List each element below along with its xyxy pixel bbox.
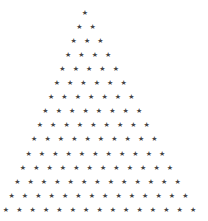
star-icon: ★ — [153, 164, 161, 171]
star-icon: ★ — [77, 51, 85, 58]
star-icon: ★ — [88, 192, 96, 199]
star-icon: ★ — [80, 80, 88, 87]
star-icon: ★ — [89, 23, 97, 30]
star-icon: ★ — [106, 80, 114, 87]
star-icon: ★ — [38, 150, 46, 157]
star-icon: ★ — [96, 37, 104, 44]
star-icon: ★ — [27, 178, 35, 185]
star-icon: ★ — [15, 207, 23, 214]
star-icon: ★ — [126, 164, 134, 171]
star-icon: ★ — [120, 178, 128, 185]
star-icon: ★ — [128, 192, 136, 199]
star-icon: ★ — [141, 192, 149, 199]
star-icon: ★ — [101, 94, 109, 101]
star-icon: ★ — [75, 23, 83, 30]
star-icon: ★ — [81, 9, 89, 16]
star-icon: ★ — [110, 136, 118, 143]
star-icon: ★ — [96, 207, 104, 214]
star-icon: ★ — [122, 207, 130, 214]
star-icon: ★ — [112, 65, 120, 72]
star-icon: ★ — [168, 192, 176, 199]
star-icon: ★ — [66, 80, 74, 87]
star-icon: ★ — [82, 108, 90, 115]
star-icon: ★ — [107, 178, 115, 185]
star-icon: ★ — [108, 108, 116, 115]
star-icon: ★ — [58, 65, 66, 72]
star-icon: ★ — [155, 192, 163, 199]
star-icon: ★ — [48, 192, 56, 199]
star-icon: ★ — [53, 80, 61, 87]
star-icon: ★ — [103, 122, 111, 129]
star-icon: ★ — [174, 178, 182, 185]
star-icon: ★ — [84, 136, 92, 143]
star-icon: ★ — [82, 207, 90, 214]
star-icon: ★ — [29, 207, 37, 214]
star-icon: ★ — [34, 192, 42, 199]
star-icon: ★ — [87, 94, 95, 101]
star-icon: ★ — [189, 207, 197, 214]
star-icon: ★ — [134, 178, 142, 185]
star-icon: ★ — [93, 80, 101, 87]
star-icon: ★ — [101, 192, 109, 199]
star-icon: ★ — [61, 94, 69, 101]
star-icon: ★ — [150, 136, 158, 143]
star-icon: ★ — [68, 108, 76, 115]
star-icon: ★ — [120, 80, 128, 87]
star-icon: ★ — [30, 136, 38, 143]
star-icon: ★ — [8, 192, 16, 199]
star-icon: ★ — [74, 94, 82, 101]
star-icon: ★ — [42, 108, 50, 115]
star-icon: ★ — [95, 108, 103, 115]
star-icon: ★ — [83, 37, 91, 44]
star-icon: ★ — [124, 136, 132, 143]
star-icon: ★ — [97, 136, 105, 143]
star-icon: ★ — [55, 207, 63, 214]
star-icon: ★ — [139, 164, 147, 171]
star-icon: ★ — [32, 164, 40, 171]
star-icon: ★ — [116, 122, 124, 129]
star-icon: ★ — [40, 178, 48, 185]
star-icon: ★ — [65, 150, 73, 157]
star-icon: ★ — [99, 164, 107, 171]
star-icon: ★ — [104, 51, 112, 58]
star-icon: ★ — [59, 164, 67, 171]
star-icon: ★ — [72, 164, 80, 171]
star-icon: ★ — [70, 37, 78, 44]
star-icon: ★ — [44, 136, 52, 143]
star-icon: ★ — [176, 207, 184, 214]
star-icon: ★ — [93, 178, 101, 185]
star-icon: ★ — [118, 150, 126, 157]
star-icon: ★ — [36, 122, 44, 129]
star-icon: ★ — [86, 164, 94, 171]
star-icon: ★ — [137, 136, 145, 143]
star-icon: ★ — [21, 192, 29, 199]
star-icon: ★ — [64, 51, 72, 58]
star-icon: ★ — [80, 178, 88, 185]
star-icon: ★ — [99, 65, 107, 72]
star-icon: ★ — [69, 207, 77, 214]
star-icon: ★ — [53, 178, 61, 185]
star-icon: ★ — [46, 164, 54, 171]
star-icon: ★ — [112, 164, 120, 171]
star-icon: ★ — [135, 108, 143, 115]
star-icon: ★ — [74, 192, 82, 199]
star-icon: ★ — [63, 122, 71, 129]
star-icon: ★ — [85, 65, 93, 72]
star-icon: ★ — [61, 192, 69, 199]
star-icon: ★ — [131, 150, 139, 157]
star-icon: ★ — [149, 207, 157, 214]
star-icon: ★ — [91, 51, 99, 58]
star-icon: ★ — [129, 122, 137, 129]
star-icon: ★ — [70, 136, 78, 143]
star-icon: ★ — [13, 178, 21, 185]
star-triangle-pattern: ★★★★★★★★★★★★★★★★★★★★★★★★★★★★★★★★★★★★★★★★… — [0, 0, 208, 221]
star-icon: ★ — [147, 178, 155, 185]
star-icon: ★ — [89, 122, 97, 129]
star-icon: ★ — [67, 178, 75, 185]
star-icon: ★ — [127, 94, 135, 101]
star-icon: ★ — [109, 207, 117, 214]
star-icon: ★ — [143, 122, 151, 129]
star-icon: ★ — [181, 192, 189, 199]
star-icon: ★ — [49, 122, 57, 129]
star-icon: ★ — [47, 94, 55, 101]
